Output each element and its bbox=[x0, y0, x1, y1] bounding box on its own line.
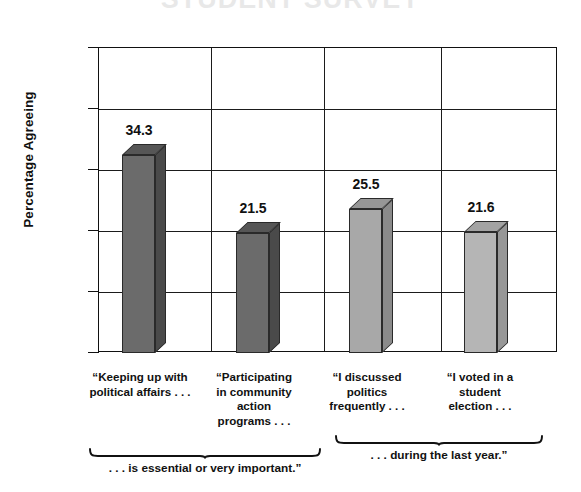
bar-1-side-face bbox=[155, 145, 166, 353]
group-caption-1: . . . is essential or very important.” bbox=[60, 461, 350, 475]
category-label-1-line-1: “Keeping up with bbox=[76, 370, 204, 385]
bar-2-value-label: 21.5 bbox=[218, 200, 288, 216]
category-label-2-line-4: programs . . . bbox=[199, 414, 309, 429]
y-axis-title: Percentage Agreeing bbox=[21, 70, 36, 250]
bar-3-value-label: 25.5 bbox=[331, 176, 401, 192]
gridline-horizontal-30 bbox=[99, 170, 556, 171]
category-label-1-line-2: political affairs . . . bbox=[76, 385, 204, 400]
category-label-4-line-1: “I voted in a bbox=[425, 370, 535, 385]
gridline-vertical-2 bbox=[324, 48, 325, 351]
group-bracket-2 bbox=[334, 435, 544, 446]
category-label-2-line-3: action bbox=[199, 399, 309, 414]
category-label-4-line-2: student bbox=[425, 385, 535, 400]
category-label-3-line-2: politics bbox=[312, 385, 422, 400]
bar-3[interactable] bbox=[349, 198, 382, 353]
category-label-1: “Keeping up with political affairs . . . bbox=[76, 370, 204, 399]
category-label-2-line-2: in community bbox=[199, 385, 309, 400]
bar-3-front-face bbox=[349, 209, 382, 353]
chart-title: STUDENT SURVEY bbox=[0, 0, 581, 15]
bar-4-side-face bbox=[497, 222, 508, 353]
chart-page: STUDENT SURVEY Percentage Agreeing 50 40… bbox=[0, 0, 581, 492]
gridline-vertical-3 bbox=[441, 48, 442, 351]
bar-4-front-face bbox=[464, 232, 497, 353]
group-bracket-1 bbox=[88, 448, 322, 459]
bar-4[interactable] bbox=[464, 221, 497, 353]
bar-3-side-face bbox=[382, 199, 393, 353]
bar-2-side-face bbox=[269, 223, 280, 353]
bar-2-front-face bbox=[236, 233, 269, 353]
category-label-2-line-1: “Participating bbox=[199, 370, 309, 385]
gridline-horizontal-40 bbox=[99, 109, 556, 110]
category-label-3-line-1: “I discussed bbox=[312, 370, 422, 385]
category-label-4: “I voted in a student election . . . bbox=[425, 370, 535, 414]
bar-2[interactable] bbox=[236, 222, 269, 353]
category-label-4-line-3: election . . . bbox=[425, 399, 535, 414]
bar-1-value-label: 34.3 bbox=[104, 122, 174, 138]
group-bracket-1-shape bbox=[88, 448, 322, 459]
category-label-3-line-3: frequently . . . bbox=[312, 399, 422, 414]
group-caption-2: . . . during the last year.” bbox=[339, 448, 539, 462]
category-label-3: “I discussed politics frequently . . . bbox=[312, 370, 422, 414]
bar-4-value-label: 21.6 bbox=[446, 199, 516, 215]
y-tick-mark-0 bbox=[88, 352, 99, 353]
bar-1-front-face bbox=[122, 155, 155, 353]
bar-1[interactable] bbox=[122, 144, 155, 353]
category-label-2: “Participating in community action progr… bbox=[199, 370, 309, 428]
gridline-vertical-1 bbox=[211, 48, 212, 351]
group-bracket-2-shape bbox=[334, 435, 544, 446]
